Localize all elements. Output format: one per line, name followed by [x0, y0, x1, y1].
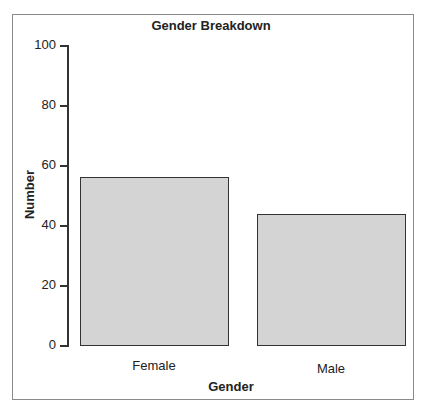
bar-male [257, 214, 406, 346]
y-tick-20 [60, 285, 68, 287]
y-tick-0 [60, 345, 68, 347]
y-tick-80 [60, 105, 68, 107]
x-category-male: Male [257, 361, 405, 376]
y-axis-line [67, 45, 69, 347]
chart-title: Gender Breakdown [0, 18, 422, 33]
y-tick-label-80: 80 [16, 97, 56, 112]
y-tick-60 [60, 165, 68, 167]
bar-female [80, 177, 229, 346]
y-tick-label-0: 0 [16, 337, 56, 352]
y-tick-label-100: 100 [16, 37, 56, 52]
y-tick-label-20: 20 [16, 277, 56, 292]
y-axis-label: Number [22, 160, 37, 230]
x-axis-label: Gender [0, 379, 422, 394]
y-tick-100 [60, 45, 68, 47]
y-tick-40 [60, 225, 68, 227]
x-category-female: Female [80, 358, 228, 373]
